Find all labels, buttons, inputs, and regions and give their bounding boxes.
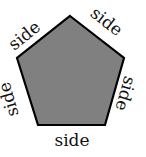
pentagon-diagram: side side side side side — [0, 0, 146, 157]
label-left-side: side — [0, 80, 23, 119]
label-bottom-side: side — [54, 130, 89, 150]
